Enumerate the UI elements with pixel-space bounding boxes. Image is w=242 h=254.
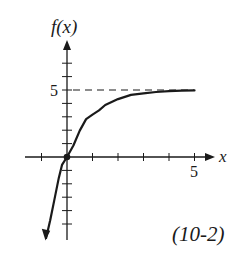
curve-arrow-icon: [42, 229, 50, 241]
x-axis-arrow-icon: [205, 153, 215, 161]
y-axis: [62, 40, 72, 240]
x-axis-label: x: [218, 147, 227, 166]
x-axis: [25, 153, 215, 161]
figure-caption: (10-2): [172, 222, 224, 246]
y-tick-label-5: 5: [50, 82, 58, 99]
function-graph: f(x) x 5 5 (10-2): [0, 0, 242, 254]
y-axis-label: f(x): [51, 16, 77, 38]
function-curve: [46, 90, 194, 238]
origin-point: [64, 154, 71, 161]
y-axis-arrow-icon: [63, 40, 71, 50]
x-tick-label-5: 5: [190, 163, 198, 180]
